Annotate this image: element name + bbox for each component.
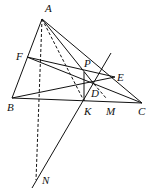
label-D: D (90, 87, 99, 99)
segment-BC (12, 98, 142, 103)
label-K: K (83, 105, 92, 117)
label-N: N (41, 174, 50, 186)
line-NK (32, 53, 111, 188)
label-F: F (15, 50, 23, 62)
label-C: C (138, 105, 146, 117)
label-M: M (105, 105, 116, 117)
segment-AD (42, 19, 94, 84)
label-E: E (116, 71, 124, 83)
label-A: A (44, 2, 52, 14)
segment-BE (12, 77, 115, 98)
label-B: B (7, 101, 14, 113)
geometry-diagram: A F P E D B K M C N (0, 0, 151, 196)
label-P: P (83, 57, 91, 69)
dashed-AK (42, 19, 84, 101)
